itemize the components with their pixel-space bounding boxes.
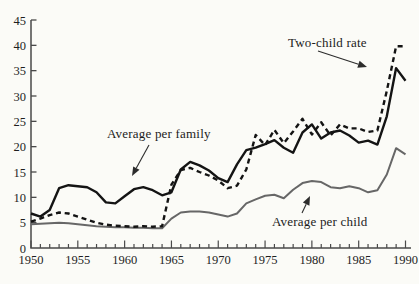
annotation-arrowhead xyxy=(132,166,139,176)
annotation-arrow-line xyxy=(318,51,358,64)
x-tick-label: 1990 xyxy=(393,253,418,267)
x-tick-label: 1985 xyxy=(346,253,371,267)
annotation-arrowhead xyxy=(303,196,310,206)
x-tick-label: 1955 xyxy=(65,253,90,267)
series-line-average-per-family xyxy=(31,68,406,217)
x-tick-label: 1960 xyxy=(112,253,137,267)
y-tick-label: 45 xyxy=(14,14,27,28)
annotation-average-per-child: Average per child xyxy=(272,214,368,230)
x-tick-label: 1980 xyxy=(299,253,324,267)
x-tick-label: 1970 xyxy=(206,253,231,267)
annotation-arrowhead xyxy=(357,61,367,68)
y-tick-label: 5 xyxy=(20,216,26,230)
y-tick-label: 30 xyxy=(14,90,27,104)
fertility-rates-figure: 0510152025303540451950195519601965197019… xyxy=(0,0,419,284)
x-tick-label: 1950 xyxy=(19,253,44,267)
y-tick-label: 15 xyxy=(14,166,27,180)
annotation-average-per-family: Average per family xyxy=(107,126,211,142)
annotation-arrow-line xyxy=(302,204,306,213)
y-tick-label: 35 xyxy=(14,64,27,78)
annotation-arrow-line xyxy=(136,145,149,168)
x-tick-label: 1965 xyxy=(159,253,184,267)
y-tick-label: 25 xyxy=(14,115,27,129)
annotation-two-child-rate: Two-child rate xyxy=(288,35,367,51)
y-tick-label: 10 xyxy=(14,191,27,205)
y-tick-label: 20 xyxy=(14,140,27,154)
y-tick-label: 40 xyxy=(14,39,27,53)
x-tick-label: 1975 xyxy=(253,253,278,267)
